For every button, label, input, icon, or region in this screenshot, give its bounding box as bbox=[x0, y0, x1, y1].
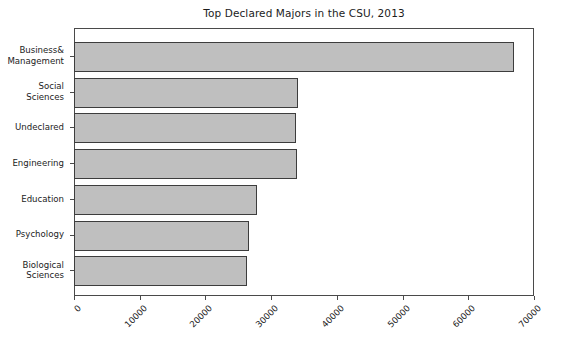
plot-area bbox=[74, 28, 534, 296]
y-axis-label-line: Biological bbox=[0, 260, 64, 271]
x-axis-tick-label-text: 30000 bbox=[254, 303, 280, 329]
x-axis-tick-mark bbox=[534, 296, 535, 300]
chart-title: Top Declared Majors in the CSU, 2013 bbox=[74, 7, 534, 19]
chart-figure: Top Declared Majors in the CSU, 2013 Bus… bbox=[0, 0, 575, 343]
x-axis-tick-label: 40000 bbox=[295, 303, 346, 343]
x-axis-tick-label: 60000 bbox=[426, 303, 477, 343]
y-axis-label: SocialSciences bbox=[0, 81, 64, 102]
x-axis-tick-mark bbox=[468, 296, 469, 300]
bar-row bbox=[75, 217, 533, 255]
bar-row bbox=[75, 74, 533, 112]
bar bbox=[74, 113, 296, 143]
y-axis-label: Psychology bbox=[0, 229, 64, 240]
x-axis-tick-label-text: 70000 bbox=[517, 303, 543, 329]
y-axis-label-line: Business& bbox=[0, 45, 64, 56]
x-axis-tick-label: 20000 bbox=[164, 303, 215, 343]
x-axis-tick-label-text: 40000 bbox=[320, 303, 346, 329]
bar-row bbox=[75, 252, 533, 290]
y-axis-label-line: Education bbox=[0, 194, 64, 205]
bar bbox=[74, 185, 257, 215]
y-axis-label-line: Psychology bbox=[0, 229, 64, 240]
x-axis-tick-label: 70000 bbox=[492, 303, 543, 343]
x-axis-tick-label-text: 20000 bbox=[188, 303, 214, 329]
x-axis-tick-mark bbox=[403, 296, 404, 300]
y-axis-label-line: Sciences bbox=[0, 92, 64, 103]
bar-row bbox=[75, 181, 533, 219]
bar bbox=[74, 42, 514, 72]
bar bbox=[74, 78, 298, 108]
x-axis-tick-mark bbox=[337, 296, 338, 300]
x-axis-tick-label: 10000 bbox=[98, 303, 149, 343]
x-axis-tick-label-text: 10000 bbox=[122, 303, 148, 329]
y-axis-label: BiologicalSciences bbox=[0, 260, 64, 281]
y-axis-label-line: Engineering bbox=[0, 158, 64, 169]
x-axis-tick-label: 30000 bbox=[229, 303, 280, 343]
x-axis-tick-mark bbox=[205, 296, 206, 300]
bar bbox=[74, 256, 247, 286]
y-axis-labels: Business&ManagementSocialSciencesUndecla… bbox=[0, 28, 70, 296]
y-axis-label: Engineering bbox=[0, 158, 64, 169]
y-axis-label-line: Sciences bbox=[0, 270, 64, 281]
y-axis-label-line: Social bbox=[0, 81, 64, 92]
bar-row bbox=[75, 109, 533, 147]
bar bbox=[74, 221, 249, 251]
y-axis-label: Business&Management bbox=[0, 45, 64, 66]
bars-layer bbox=[75, 29, 533, 295]
x-axis-tick-label: 50000 bbox=[361, 303, 412, 343]
y-axis-label-line: Undeclared bbox=[0, 122, 64, 133]
y-axis-label: Undeclared bbox=[0, 122, 64, 133]
x-axis-tick-label: 0 bbox=[32, 303, 83, 343]
y-axis-label: Education bbox=[0, 194, 64, 205]
x-axis-tick-mark bbox=[74, 296, 75, 300]
x-axis-tick-label-text: 50000 bbox=[385, 303, 411, 329]
x-axis-tick-mark bbox=[271, 296, 272, 300]
y-axis-label-line: Management bbox=[0, 56, 64, 67]
x-axis-tick-label-text: 0 bbox=[72, 303, 83, 314]
x-axis-tick-label-text: 60000 bbox=[451, 303, 477, 329]
bar-row bbox=[75, 38, 533, 76]
x-axis-ticks: 010000200003000040000500006000070000 bbox=[74, 296, 535, 343]
bar bbox=[74, 149, 297, 179]
x-axis-tick-mark bbox=[140, 296, 141, 300]
bar-row bbox=[75, 145, 533, 183]
